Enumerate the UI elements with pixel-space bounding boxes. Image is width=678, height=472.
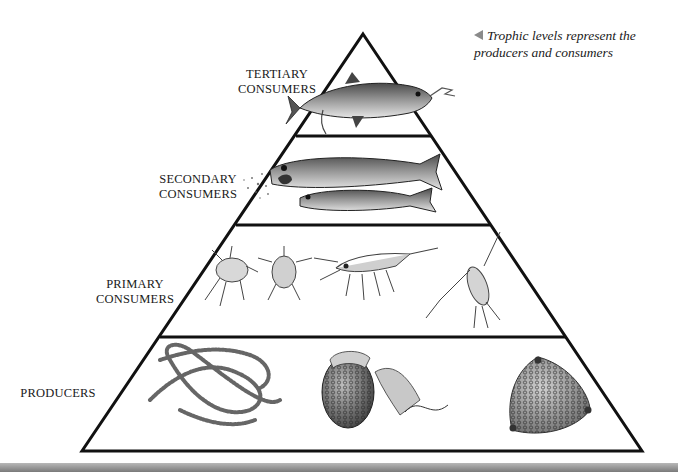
trophic-pyramid-diagram: TERTIARY CONSUMERS SECONDARY CONSUMERS P… (0, 0, 678, 472)
dinoflagellate (322, 351, 448, 428)
level-label-producers: PRODUCERS (18, 386, 98, 401)
level-label-tertiary: TERTIARY CONSUMERS (237, 67, 317, 97)
level-label-secondary: SECONDARY CONSUMERS (158, 172, 238, 202)
diatom (510, 357, 592, 434)
bead-chain-algae (150, 345, 280, 424)
level-label-primary: PRIMARY CONSUMERS (95, 277, 175, 307)
bottom-bar (0, 463, 678, 472)
producers-illustration (150, 345, 592, 433)
fish-illustration (243, 154, 442, 212)
caption: Trophic levels represent the producers a… (474, 27, 674, 61)
caption-text: Trophic levels represent the producers a… (474, 28, 636, 60)
triangle-left-icon (474, 30, 483, 40)
pyramid-graphic (0, 0, 678, 472)
zooplankton-illustration (205, 232, 500, 328)
